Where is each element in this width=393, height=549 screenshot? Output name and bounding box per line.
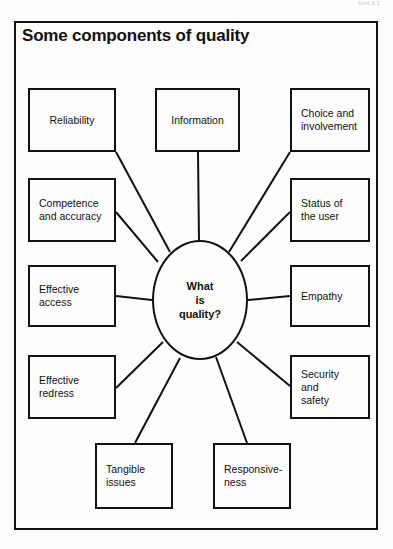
node-label-responsiveness: Responsive- ness — [224, 463, 282, 489]
node-label-information: Information — [171, 114, 224, 127]
figure-title: Some components of quality — [22, 26, 249, 46]
center-oval-node: What is quality? — [152, 240, 248, 360]
scan-artifact-text: Unit 3.1 — [359, 0, 380, 6]
figure-page: Unit 3.1 Some components of quality Reli… — [0, 0, 393, 549]
node-box-effective-access: Effective access — [28, 265, 116, 327]
node-box-effective-redress: Effective redress — [28, 355, 116, 419]
node-box-status-of-the-user: Status of the user — [290, 178, 370, 242]
node-label-empathy: Empathy — [301, 290, 342, 303]
node-label-effective-access: Effective access — [39, 283, 79, 309]
node-box-responsiveness: Responsive- ness — [213, 443, 291, 509]
node-label-reliability: Reliability — [50, 114, 95, 127]
node-label-effective-redress: Effective redress — [39, 374, 79, 400]
node-box-competence-accuracy: Competence and accuracy — [28, 178, 116, 242]
node-box-reliability: Reliability — [28, 88, 116, 152]
node-label-status-of-the-user: Status of the user — [301, 197, 342, 223]
node-label-choice-involvement: Choice and involvement — [301, 107, 357, 133]
node-box-empathy: Empathy — [290, 265, 370, 327]
node-box-choice-involvement: Choice and involvement — [290, 88, 370, 152]
node-label-security-safety: Security and safety — [301, 368, 339, 407]
node-box-tangible-issues: Tangible issues — [95, 443, 173, 509]
node-label-tangible-issues: Tangible issues — [106, 463, 145, 489]
node-box-security-safety: Security and safety — [290, 355, 370, 419]
node-label-competence-accuracy: Competence and accuracy — [39, 197, 101, 223]
node-box-information: Information — [155, 88, 240, 152]
center-oval-label: What is quality? — [179, 279, 221, 321]
